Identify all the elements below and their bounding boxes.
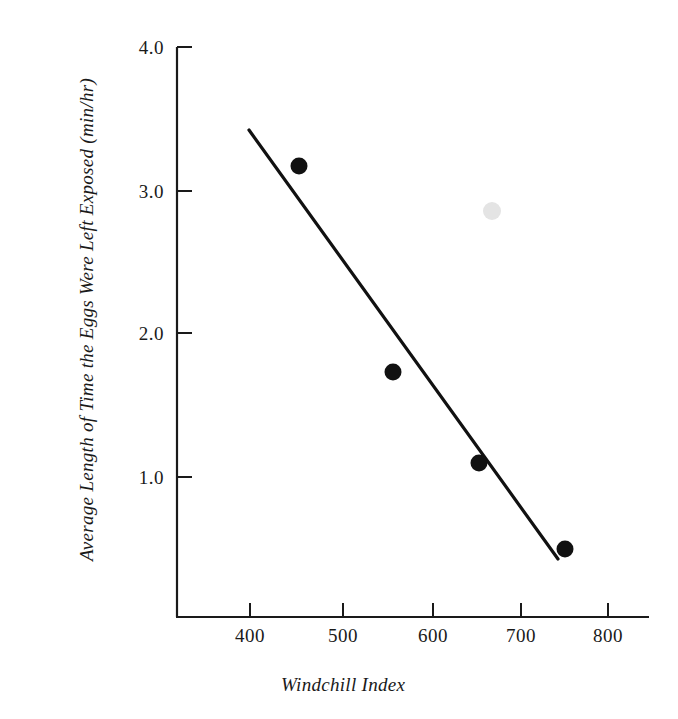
x-tick-label-500: 500 xyxy=(303,625,383,647)
data-point xyxy=(291,158,308,175)
plot-canvas xyxy=(0,0,678,719)
y-axis-ticks xyxy=(177,47,192,477)
data-point xyxy=(385,364,402,381)
x-axis-ticks xyxy=(250,603,608,617)
data-point xyxy=(471,455,488,472)
x-tick-label-700: 700 xyxy=(481,625,561,647)
x-tick-label-400: 400 xyxy=(210,625,290,647)
x-tick-label-600: 600 xyxy=(393,625,473,647)
y-axis-title: Average Length of Time the Eggs Were Lef… xyxy=(76,78,98,561)
x-axis-title: Windchill Index xyxy=(281,674,405,696)
faint-data-point xyxy=(483,202,501,220)
y-tick-label-3: 3.0 xyxy=(108,181,164,203)
x-tick-label-800: 800 xyxy=(568,625,648,647)
y-tick-label-1: 1.0 xyxy=(108,467,164,489)
y-tick-label-2: 2.0 xyxy=(108,323,164,345)
regression-line xyxy=(249,130,558,559)
data-point-series xyxy=(291,158,574,558)
scatter-plot-figure: 4.0 3.0 2.0 1.0 400 500 600 700 800 Wind… xyxy=(0,0,678,719)
y-tick-label-4: 4.0 xyxy=(108,37,164,59)
data-point xyxy=(557,541,574,558)
